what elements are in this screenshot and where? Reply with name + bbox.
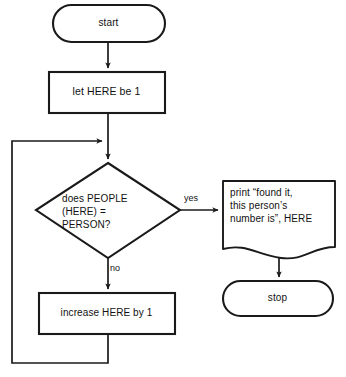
- decision-diamond-label: does PEOPLE (HERE) = PERSON?: [38, 192, 178, 232]
- print-document-label: print “found it, this person’s number is…: [230, 186, 334, 226]
- flowchart-diagram: start let HERE be 1 does PEOPLE (HERE) =…: [0, 0, 346, 377]
- edge-label-yes: yes: [184, 194, 198, 203]
- edge-label-no: no: [110, 264, 120, 273]
- start-terminator-label: start: [52, 16, 165, 29]
- increment-process-label: increase HERE by 1: [38, 306, 175, 319]
- init-process-label: let HERE be 1: [48, 85, 165, 99]
- stop-terminator-label: stop: [222, 291, 333, 304]
